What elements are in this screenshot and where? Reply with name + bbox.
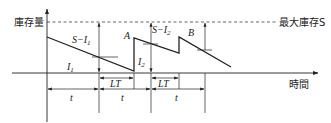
inventory-label-1: I1 (66, 61, 74, 74)
inventory-label-2: I2 (137, 56, 145, 69)
y-axis-label: 庫存量 (14, 16, 44, 28)
lead-time-label-2: LT (157, 78, 170, 89)
interval-label-2: t (121, 92, 124, 103)
gap-label-2: S−I2 (152, 24, 171, 37)
x-axis-label: 時間 (289, 79, 309, 90)
point-label-a: A (123, 30, 131, 41)
max-inventory-label: 最大庫存S (279, 16, 325, 28)
interval-label-1: t (70, 92, 73, 103)
lead-time-label-1: LT (109, 78, 122, 89)
inventory-sawtooth-diagram: 庫存量 時間 最大庫存S S−I1 S−I2 A B I1 I2 LT LT t (0, 0, 331, 123)
interval-label-3: t (175, 92, 178, 103)
gap-label-1: S−I1 (72, 34, 91, 47)
max-inventory-label-text: 最大庫存S (279, 16, 325, 28)
point-label-b: B (188, 27, 194, 38)
